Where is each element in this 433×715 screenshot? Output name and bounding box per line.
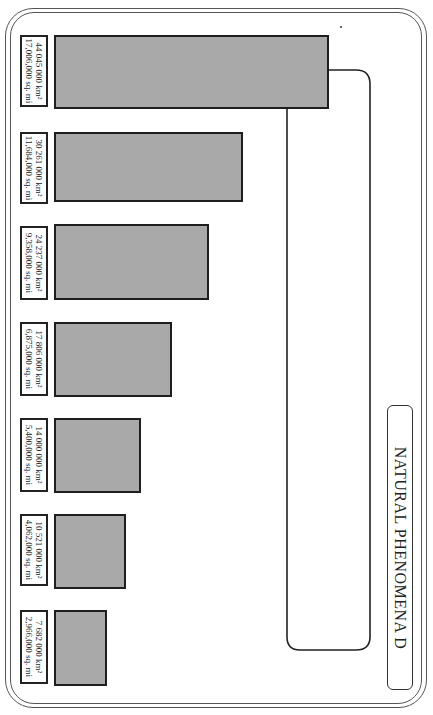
area-mi: 4,062,000 sq. mi: [24, 520, 34, 580]
bar-label-1: 44 045 000 km²17,006,000 sq. mi: [20, 35, 48, 107]
bar-label-5: 14 000 000 km²5,400,000 sq. mi: [20, 418, 48, 492]
area-km: 7 682 000 km²: [34, 617, 44, 677]
area-mi: 5,400,000 sq. mi: [24, 425, 34, 485]
bar-7: [54, 610, 107, 686]
area-mi: 6,875,000 sq. mi: [24, 329, 34, 389]
area-mi: 9,358,000 sq. mi: [24, 233, 34, 293]
area-km: 14 000 000 km²: [34, 425, 44, 485]
bar-label-4: 17 806 000 km²6,875,000 sq. mi: [20, 322, 48, 396]
area-km: 24 237 000 km²: [34, 233, 44, 293]
bar-label-7: 7 682 000 km²2,966,000 sq. mi: [20, 610, 48, 684]
area-mi: 11,684,000 sq. mi: [24, 136, 34, 200]
bar-label-2: 30 261 000 km²11,684,000 sq. mi: [20, 132, 48, 204]
chart-title: NATURAL PHENOMENA D: [391, 446, 409, 649]
area-km: 30 261 000 km²: [34, 136, 44, 200]
bar-5: [54, 418, 141, 493]
bar-label-6: 10 521 000 km²4,062,000 sq. mi: [20, 514, 48, 586]
area-km: 17 806 000 km²: [34, 329, 44, 389]
chart-title-box: NATURAL PHENOMENA D: [387, 405, 413, 690]
bar-2: [54, 132, 243, 202]
area-mi: 17,006,000 sq. mi: [24, 39, 34, 104]
bar-4: [54, 322, 172, 397]
bar-label-3: 24 237 000 km²9,358,000 sq. mi: [20, 226, 48, 300]
bar-3: [54, 224, 209, 300]
bar-1: [54, 35, 329, 109]
bar-6: [54, 514, 126, 589]
area-km: 44 045 000 km²: [34, 39, 44, 104]
area-mi: 2,966,000 sq. mi: [24, 617, 34, 677]
area-km: 10 521 000 km²: [34, 520, 44, 580]
